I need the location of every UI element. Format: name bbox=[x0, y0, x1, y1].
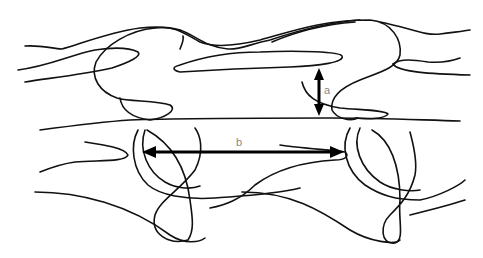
contour-upper-right-3 bbox=[393, 64, 470, 75]
contour-lower-mid bbox=[210, 145, 347, 208]
contour-upper-left bbox=[25, 27, 180, 49]
measurement-b-label: b bbox=[236, 137, 242, 148]
body-outline bbox=[94, 28, 172, 120]
loop-right-cross bbox=[372, 130, 416, 243]
contour-left-small bbox=[40, 142, 128, 172]
loop-left-inner bbox=[143, 130, 200, 188]
contour-lower-left bbox=[35, 192, 205, 242]
contour-upper-left-2 bbox=[18, 48, 139, 82]
anatomical-drawing bbox=[0, 0, 483, 258]
measurement-a-arrowhead-bottom bbox=[314, 104, 324, 116]
process-left bbox=[180, 36, 183, 49]
measurement-a-label: a bbox=[324, 85, 330, 96]
loop-left-outer bbox=[133, 130, 300, 198]
contour-lower-right-2 bbox=[410, 200, 465, 215]
measurement-a-arrowhead-top bbox=[314, 68, 324, 80]
contour-upper-right-2 bbox=[393, 58, 460, 64]
loop-right-inner bbox=[357, 128, 420, 191]
diagram-canvas: a b bbox=[0, 0, 483, 258]
contour-mid-left bbox=[40, 118, 460, 130]
contour-lower-right bbox=[242, 192, 400, 242]
process-upper bbox=[174, 51, 342, 72]
measurement-b-arrowhead-right bbox=[330, 146, 344, 158]
